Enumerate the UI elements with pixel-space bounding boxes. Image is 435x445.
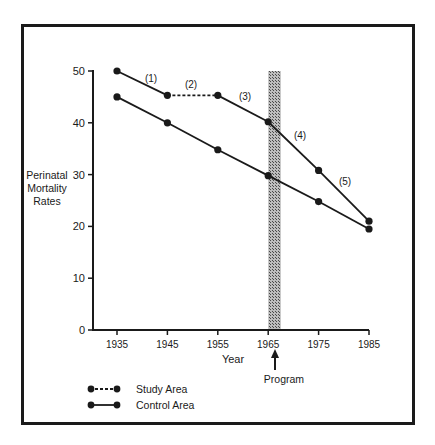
legend-label-control: Control Area	[136, 399, 195, 411]
legend: Study AreaControl Area	[88, 383, 195, 411]
program-band-rect	[268, 71, 281, 330]
study-marker	[265, 118, 272, 125]
legend-marker	[88, 402, 95, 409]
legend-marker	[88, 386, 95, 393]
study-marker	[164, 92, 171, 99]
control-segment	[167, 123, 217, 150]
segment-label: (2)	[185, 79, 197, 90]
y-tick-label: 50	[73, 65, 85, 77]
x-tick-label: 1935	[106, 339, 129, 350]
control-segment	[319, 202, 369, 229]
control-segment	[117, 97, 167, 123]
legend-marker	[114, 386, 121, 393]
control-segment	[218, 150, 268, 176]
study-segment	[117, 71, 167, 95]
study-marker	[113, 67, 120, 74]
control-marker	[265, 172, 272, 179]
legend-label-study: Study Area	[136, 383, 188, 395]
control-marker	[164, 119, 171, 126]
y-tick-label: 40	[73, 117, 85, 129]
segment-label: (3)	[239, 91, 251, 102]
legend-marker	[114, 402, 121, 409]
y-axis-title: Mortality	[27, 182, 67, 194]
program-shaded-band	[268, 71, 281, 330]
study-marker	[365, 218, 372, 225]
control-marker	[113, 93, 120, 100]
segment-label: (4)	[294, 130, 306, 141]
x-tick-label: 1975	[307, 339, 330, 350]
y-tick-label: 30	[73, 169, 85, 181]
y-tick-label: 20	[73, 220, 85, 232]
x-axis-title: Year	[222, 353, 245, 365]
x-tick-label: 1945	[156, 339, 179, 350]
segment-label: (1)	[145, 73, 157, 84]
study-marker	[214, 92, 221, 99]
x-tick-label: 1955	[207, 339, 230, 350]
axes: 01020304050193519451955196519751985YearP…	[26, 65, 380, 365]
y-tick-label: 10	[73, 272, 85, 284]
study-marker	[315, 167, 322, 174]
line-chart: 01020304050193519451955196519751985YearP…	[0, 0, 435, 445]
control-marker	[365, 225, 372, 232]
program-arrow-icon	[271, 349, 279, 358]
y-tick-label: 0	[79, 324, 85, 336]
control-marker	[315, 198, 322, 205]
control-marker	[214, 146, 221, 153]
segment-label: (5)	[339, 176, 351, 187]
program-label: Program	[264, 373, 305, 385]
y-axis-title: Rates	[33, 195, 60, 207]
x-tick-label: 1985	[358, 339, 381, 350]
y-axis-title: Perinatal	[26, 169, 67, 181]
x-tick-label: 1965	[257, 339, 280, 350]
